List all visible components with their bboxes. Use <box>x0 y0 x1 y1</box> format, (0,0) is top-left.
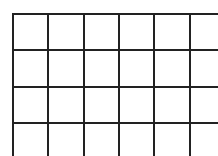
grid-cell <box>154 50 189 86</box>
canvas <box>0 0 218 156</box>
grid-cell <box>119 123 154 156</box>
grid-cell <box>48 50 83 86</box>
grid-cell <box>190 123 218 156</box>
grid-cell <box>154 14 189 50</box>
grid-cell <box>190 14 218 50</box>
grid-cell <box>84 14 119 50</box>
grid-row <box>13 123 218 156</box>
grid-body <box>13 14 218 156</box>
grid-cell <box>13 87 48 123</box>
grid-cell <box>119 14 154 50</box>
grid-row <box>13 14 218 50</box>
grid-cell <box>48 87 83 123</box>
grid-cell <box>13 123 48 156</box>
grid-cell <box>119 50 154 86</box>
grid-cell <box>13 50 48 86</box>
grid-cell <box>190 87 218 123</box>
grid-cell <box>48 14 83 50</box>
grid-cell <box>154 87 189 123</box>
grid-cell <box>190 50 218 86</box>
grid-cell <box>13 14 48 50</box>
grid-cell <box>154 123 189 156</box>
empty-grid <box>12 13 218 156</box>
grid-cell <box>84 123 119 156</box>
grid-cell <box>84 87 119 123</box>
grid-cell <box>119 87 154 123</box>
grid-row <box>13 50 218 86</box>
grid-cell <box>48 123 83 156</box>
grid-row <box>13 87 218 123</box>
grid-cell <box>84 50 119 86</box>
